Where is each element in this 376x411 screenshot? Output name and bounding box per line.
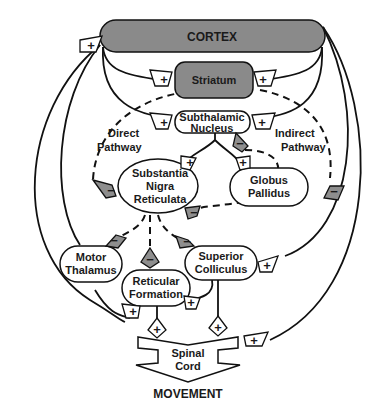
rf-label-2: Formation: [129, 288, 183, 300]
spinal-label-2: Cord: [175, 360, 201, 372]
svg-text:+: +: [129, 304, 137, 319]
svg-text:−: −: [236, 136, 244, 151]
rf-label-1: Reticular: [132, 275, 180, 287]
svg-text:−: −: [107, 183, 115, 198]
svg-text:+: +: [250, 333, 258, 348]
plus-icon: +: [236, 155, 250, 170]
minus-icon: −: [141, 248, 159, 268]
mt-label-1: Motor: [76, 251, 107, 263]
minus-icon: −: [185, 205, 200, 220]
svg-text:−: −: [183, 234, 191, 249]
plus-icon: +: [148, 318, 166, 338]
sc-label-2: Colliculus: [195, 263, 248, 275]
plus-icon: +: [244, 332, 268, 348]
direct-pathway-label-2: Pathway: [97, 141, 143, 153]
svg-text:+: +: [258, 115, 266, 130]
indirect-pathway-label-2: Pathway: [281, 141, 327, 153]
plus-icon: +: [209, 316, 227, 336]
svg-text:−: −: [190, 205, 198, 220]
snr-outputs-dashed: [115, 215, 180, 252]
minus-icon: −: [176, 234, 194, 249]
svg-text:+: +: [187, 295, 195, 310]
gp-label-1: Globus: [250, 174, 288, 186]
mt-label-2: Thalamus: [65, 264, 116, 276]
stn-label-2: Nucleus: [191, 122, 234, 134]
cortex-to-thalamus-left-curve: [61, 45, 100, 245]
minus-icon: −: [233, 133, 248, 152]
snr-label-2: Nigra: [146, 180, 175, 192]
basal-ganglia-diagram: CORTEX Striatum Subthalamic Nucleus Subs…: [0, 0, 376, 411]
plus-icon: +: [258, 256, 278, 273]
svg-text:−: −: [330, 184, 338, 199]
svg-text:+: +: [160, 72, 168, 87]
svg-text:+: +: [214, 320, 222, 335]
svg-text:+: +: [153, 322, 161, 337]
plus-icon: +: [252, 113, 275, 130]
svg-text:+: +: [87, 38, 95, 53]
plus-icon: +: [184, 295, 200, 310]
svg-text:+: +: [263, 258, 271, 273]
plus-icon: +: [150, 70, 172, 87]
svg-text:+: +: [259, 72, 267, 87]
sc-label-1: Superior: [198, 250, 244, 262]
svg-text:+: +: [186, 155, 194, 170]
snr-label-1: Substantia: [132, 167, 189, 179]
svg-text:−: −: [146, 252, 154, 267]
cortex-label: CORTEX: [187, 30, 237, 44]
movement-label: MOVEMENT: [153, 387, 223, 401]
svg-text:+: +: [160, 115, 168, 130]
svg-text:−: −: [110, 233, 118, 248]
minus-icon: −: [93, 180, 116, 198]
spinal-label-1: Spinal: [171, 347, 204, 359]
plus-icon: +: [150, 113, 172, 130]
plus-icon: +: [80, 36, 102, 53]
indirect-pathway-label-1: Indirect: [275, 127, 315, 139]
striatum-label: Striatum: [192, 74, 237, 86]
plus-icon: +: [181, 155, 196, 170]
svg-text:+: +: [239, 155, 247, 170]
minus-icon: −: [324, 184, 344, 200]
plus-icon: +: [254, 70, 276, 87]
snr-label-3: Reticulata: [134, 193, 187, 205]
direct-pathway-label-1: Direct: [108, 127, 140, 139]
gp-label-2: Pallidus: [248, 187, 290, 199]
